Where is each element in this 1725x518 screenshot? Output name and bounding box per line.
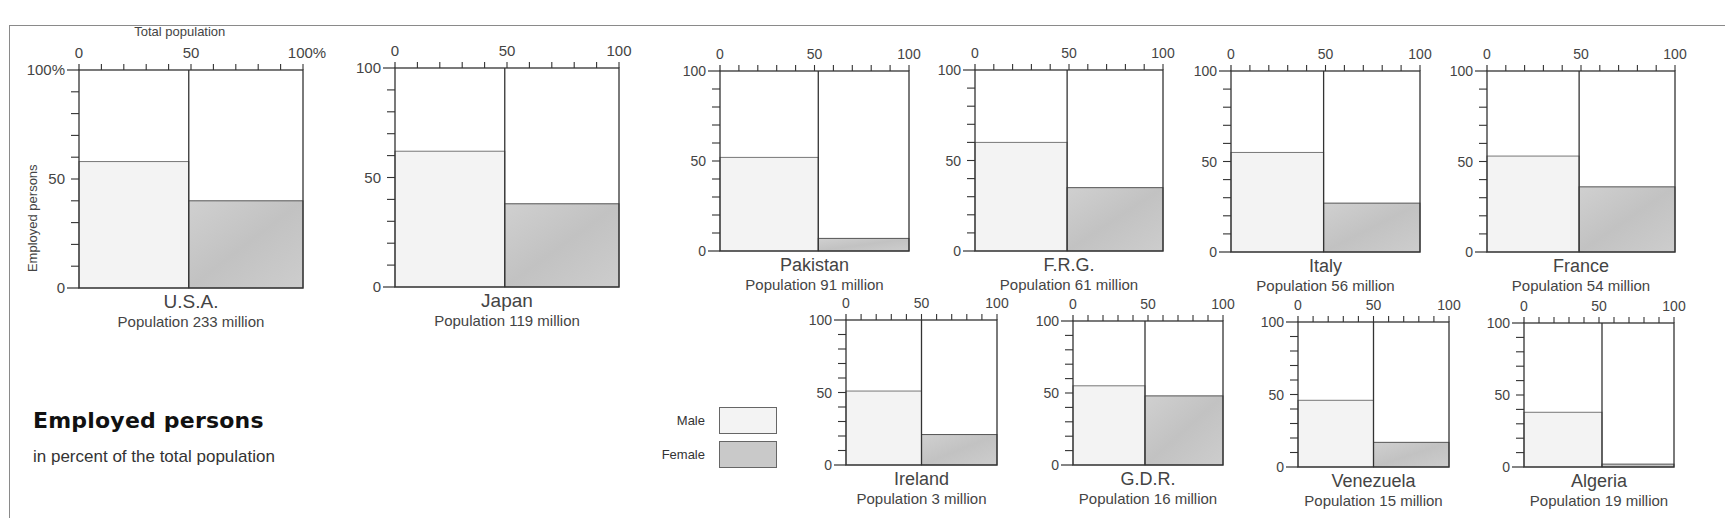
legend-swatch-male <box>719 407 777 434</box>
x-tick-label: 0 <box>716 46 724 62</box>
chart-canvas: 050100%100%500U.S.A.Population 233 milli… <box>0 0 1725 518</box>
bar-female <box>189 201 303 288</box>
population-label: Population 54 million <box>1512 277 1650 294</box>
bar-female <box>1324 203 1420 252</box>
bar-female <box>1145 396 1223 465</box>
y-tick-label: 50 <box>1268 387 1284 403</box>
y-tick-label: 50 <box>945 153 961 169</box>
country-label: G.D.R. <box>1120 469 1175 489</box>
population-label: Population 61 million <box>1000 276 1138 293</box>
y-tick-label: 50 <box>816 385 832 401</box>
country-panel-gdr: 050100100500G.D.R.Population 16 million <box>1036 296 1235 507</box>
country-label: Algeria <box>1571 471 1628 491</box>
y-tick-label: 0 <box>57 279 65 296</box>
y-tick-label: 0 <box>1209 244 1217 260</box>
y-tick-label: 100 <box>1450 63 1474 79</box>
y-tick-label: 100 <box>356 59 381 76</box>
bar-female <box>1579 187 1675 252</box>
y-tick-label: 0 <box>824 457 832 473</box>
y-axis-title: Employed persons <box>25 164 40 272</box>
country-label: France <box>1553 256 1609 276</box>
x-tick-label: 0 <box>1227 46 1235 62</box>
x-tick-label: 50 <box>499 42 516 59</box>
y-tick-label: 50 <box>1043 385 1059 401</box>
bar-female <box>505 204 619 287</box>
bar-male <box>720 157 818 251</box>
x-tick-label: 50 <box>1140 296 1156 312</box>
y-tick-label: 50 <box>690 153 706 169</box>
chart-subtitle: in percent of the total population <box>33 447 275 467</box>
country-panel-japan: 050100100500JapanPopulation 119 million <box>356 42 632 329</box>
bar-male <box>1073 386 1145 465</box>
country-panel-algeria: 050100100500AlgeriaPopulation 19 million <box>1487 298 1686 509</box>
y-tick-label: 100 <box>1194 63 1218 79</box>
population-label: Population 16 million <box>1079 490 1217 507</box>
y-tick-label: 50 <box>1494 387 1510 403</box>
y-tick-label: 100% <box>27 61 65 78</box>
population-label: Population 233 million <box>118 313 265 330</box>
country-label: Italy <box>1309 256 1342 276</box>
y-tick-label: 50 <box>1457 154 1473 170</box>
population-label: Population 119 million <box>434 312 580 329</box>
country-panel-frg: 050100100500F.R.G.Population 61 million <box>938 45 1175 293</box>
y-tick-label: 50 <box>48 170 65 187</box>
x-tick-label: 0 <box>842 295 850 311</box>
x-tick-label: 50 <box>1573 46 1589 62</box>
legend-item-male: Male <box>650 407 777 434</box>
x-tick-label: 0 <box>1520 298 1528 314</box>
y-tick-label: 0 <box>373 278 381 295</box>
country-panel-france: 050100100500FrancePopulation 54 million <box>1450 46 1687 294</box>
x-tick-label: 50 <box>1591 298 1607 314</box>
bar-male <box>1231 152 1324 252</box>
country-label: Pakistan <box>780 255 849 275</box>
x-tick-label: 50 <box>1366 297 1382 313</box>
bar-female <box>922 435 998 465</box>
y-tick-label: 100 <box>1261 314 1285 330</box>
bar-male <box>1487 156 1579 252</box>
x-tick-label: 50 <box>1061 45 1077 61</box>
x-tick-label: 50 <box>1318 46 1334 62</box>
y-tick-label: 50 <box>364 169 381 186</box>
y-tick-label: 0 <box>1051 457 1059 473</box>
x-tick-label: 100 <box>1151 45 1175 61</box>
y-tick-label: 100 <box>1036 313 1060 329</box>
country-panel-italy: 050100100500ItalyPopulation 56 million <box>1194 46 1432 294</box>
population-label: Population 19 million <box>1530 492 1668 509</box>
legend-label-male: Male <box>650 413 705 428</box>
legend-item-female: Female <box>650 441 777 468</box>
y-tick-label: 100 <box>683 63 707 79</box>
x-tick-label: 100 <box>1211 296 1235 312</box>
x-tick-label: 0 <box>75 44 83 61</box>
bar-female <box>1374 442 1450 467</box>
x-tick-label: 100 <box>897 46 921 62</box>
population-label: Population 3 million <box>856 490 986 507</box>
x-tick-label: 50 <box>914 295 930 311</box>
country-panel-pakistan: 050100100500PakistanPopulation 91 millio… <box>683 46 921 293</box>
population-label: Population 56 million <box>1256 277 1394 294</box>
country-label: Venezuela <box>1331 471 1416 491</box>
x-tick-label: 0 <box>391 42 399 59</box>
y-tick-label: 0 <box>953 243 961 259</box>
y-tick-label: 0 <box>1465 244 1473 260</box>
y-tick-label: 0 <box>1502 459 1510 475</box>
x-tick-label: 100 <box>1437 297 1461 313</box>
bar-female <box>1067 188 1163 251</box>
chart-title: Employed persons <box>33 408 264 433</box>
x-tick-label: 0 <box>1294 297 1302 313</box>
country-panel-venezuela: 050100100500VenezuelaPopulation 15 milli… <box>1261 297 1461 509</box>
bar-male <box>975 142 1067 251</box>
country-label: F.R.G. <box>1043 255 1094 275</box>
y-tick-label: 50 <box>1201 154 1217 170</box>
y-tick-label: 100 <box>809 312 833 328</box>
bar-male <box>1298 400 1374 467</box>
legend-swatch-female <box>719 441 777 468</box>
country-panel-usa: 050100%100%500U.S.A.Population 233 milli… <box>25 24 326 330</box>
population-label: Population 15 million <box>1304 492 1442 509</box>
x-tick-label: 100 <box>1662 298 1686 314</box>
x-tick-label: 50 <box>183 44 200 61</box>
x-axis-title: Total population <box>134 24 225 39</box>
y-tick-label: 0 <box>698 243 706 259</box>
legend-label-female: Female <box>650 447 705 462</box>
y-tick-label: 100 <box>938 62 962 78</box>
y-tick-label: 0 <box>1276 459 1284 475</box>
